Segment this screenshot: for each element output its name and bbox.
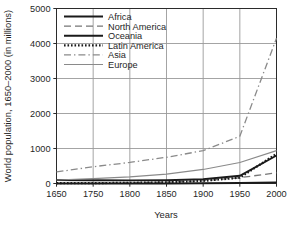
legend-label-latin-america: Latin America [108,41,165,51]
legend-label-europe: Europe [108,60,138,70]
legend-label-africa: Africa [108,12,132,22]
legend-label-north-america: North America [108,22,167,32]
y-tick-label: 3000 [30,74,50,84]
y-tick-label: 5000 [30,4,50,14]
x-tick-label: 1650 [46,189,66,199]
population-line-chart: 1650175018001850190019502000 01000200030… [0,0,290,225]
y-tick-label: 0 [45,179,50,189]
y-axis-title: World population, 1650–2000 (in millions… [2,10,13,182]
x-tick-label: 1950 [230,189,250,199]
x-tick-label: 1750 [83,189,103,199]
y-tick-label: 2000 [30,109,50,119]
x-tick-label: 2000 [266,189,286,199]
chart-container: 1650175018001850190019502000 01000200030… [0,0,290,225]
y-tick-label: 4000 [30,39,50,49]
y-tick-label: 1000 [30,144,50,154]
legend-label-asia: Asia [108,50,127,60]
x-tick-label: 1850 [156,189,176,199]
x-axis-title: Years [154,209,178,220]
x-tick-label: 1800 [120,189,140,199]
legend-label-oceania: Oceania [108,31,143,41]
x-tick-label: 1900 [193,189,213,199]
